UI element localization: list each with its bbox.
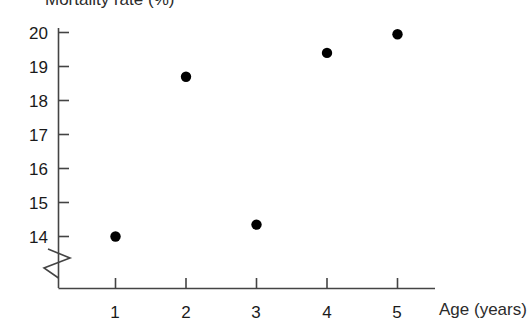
data-point — [392, 29, 402, 39]
axis-break-zigzag-icon — [44, 249, 70, 278]
data-point — [322, 48, 332, 58]
plot-area — [0, 0, 531, 331]
data-point — [251, 219, 261, 229]
data-point — [181, 72, 191, 82]
data-point — [110, 231, 120, 241]
x-axis-ticks — [116, 278, 398, 289]
data-point-group — [110, 29, 402, 242]
y-axis-ticks — [59, 33, 70, 237]
scatter-chart: Mortality rate (%) Age (years) 20 19 18 … — [0, 0, 531, 331]
